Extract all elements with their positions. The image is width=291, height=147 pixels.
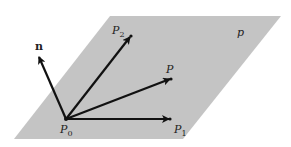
label-p: P <box>165 63 174 76</box>
label-n: n <box>35 40 43 53</box>
point-p-dot <box>169 77 172 80</box>
point-p0-dot <box>64 117 68 121</box>
plane-diagram: n P2 P P1 P0 p <box>0 0 291 147</box>
point-p2-dot <box>129 34 132 37</box>
point-p1-dot <box>168 117 171 120</box>
label-plane-p: p <box>237 26 244 39</box>
